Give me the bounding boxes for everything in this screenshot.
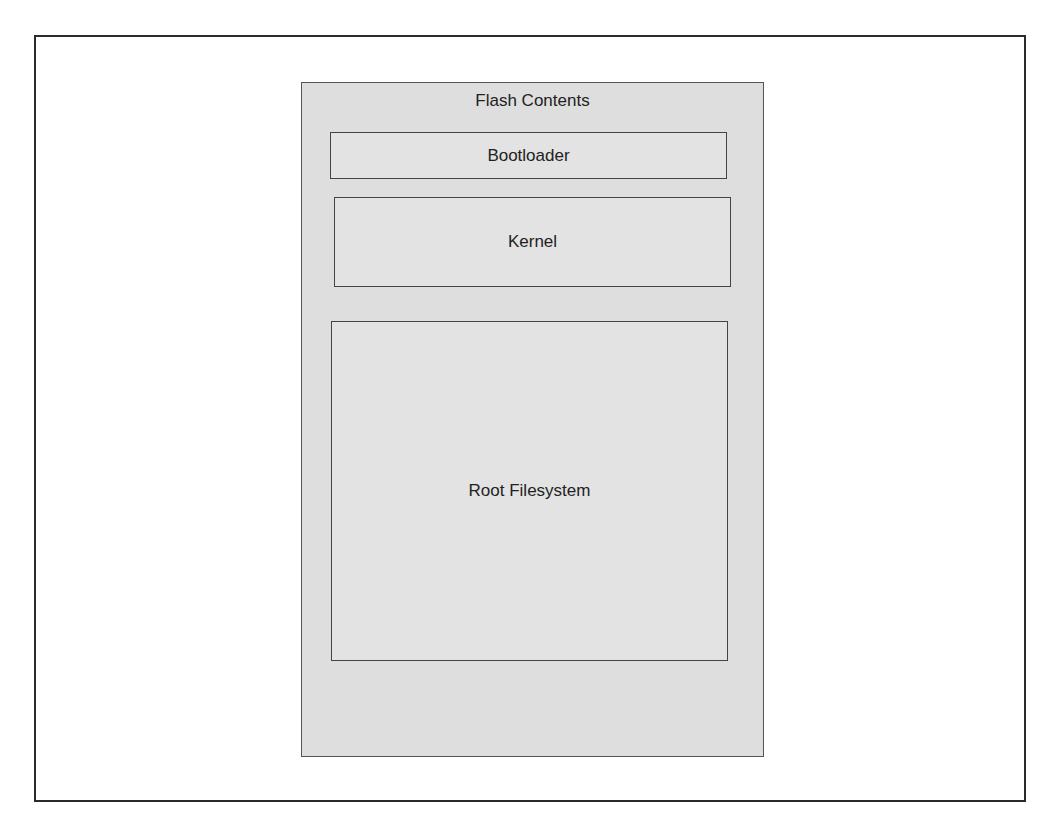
root-filesystem-label: Root Filesystem [469,481,591,501]
bootloader-block: Bootloader [330,132,727,179]
bootloader-label: Bootloader [487,146,569,166]
kernel-block: Kernel [334,197,731,287]
root-filesystem-block: Root Filesystem [331,321,728,661]
panel-title: Flash Contents [302,91,763,111]
kernel-label: Kernel [508,232,557,252]
